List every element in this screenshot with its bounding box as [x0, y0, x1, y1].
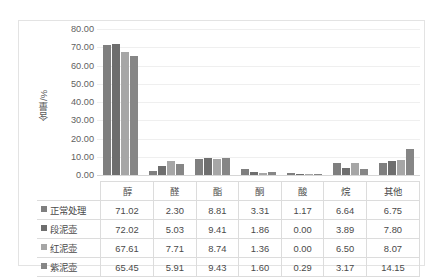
- data-cell: 7.80: [366, 220, 419, 239]
- data-cell: 1.36: [239, 239, 282, 258]
- column-header: 其他: [366, 182, 419, 201]
- y-axis-tick-labels: 80.0070.0060.0050.0040.0030.0020.0010.00…: [53, 23, 97, 181]
- bar-group-1: [143, 29, 189, 175]
- legend-swatch-icon: [41, 263, 47, 269]
- bar: [379, 163, 387, 175]
- y-axis-tick-label: 50.00: [71, 79, 94, 89]
- column-header: 酯: [196, 182, 239, 201]
- data-cell: 3.17: [324, 258, 367, 277]
- data-cell: 6.75: [366, 201, 419, 220]
- chart-frame: 含量/% 80.0070.0060.0050.0040.0030.0020.00…: [18, 20, 425, 266]
- bar: [406, 149, 414, 175]
- data-cell: 1.86: [239, 220, 282, 239]
- data-cell: 5.03: [154, 220, 197, 239]
- bar: [351, 163, 359, 175]
- y-axis-tick-label: 0.00: [76, 170, 94, 180]
- data-cell: 6.64: [324, 201, 367, 220]
- legend-item-3[interactable]: 紫泥壶: [37, 258, 101, 277]
- data-cell: 9.41: [196, 220, 239, 239]
- series-label: 紫泥壶: [50, 262, 77, 273]
- bar: [149, 171, 157, 175]
- bar: [314, 174, 322, 175]
- bar: [388, 161, 396, 175]
- data-cell: 67.61: [101, 239, 154, 258]
- bar: [112, 44, 120, 175]
- y-axis-tick-label: 80.00: [71, 24, 94, 34]
- data-cell: 3.89: [324, 220, 367, 239]
- bar: [259, 173, 267, 175]
- bar-group-2: [189, 29, 235, 175]
- data-cell: 8.07: [366, 239, 419, 258]
- bar: [305, 174, 313, 175]
- bar-group-3: [235, 29, 281, 175]
- data-cell: 3.31: [239, 201, 282, 220]
- data-cell: 6.50: [324, 239, 367, 258]
- bar: [158, 166, 166, 175]
- data-cell: 8.74: [196, 239, 239, 258]
- bar: [268, 172, 276, 175]
- table-row: 段泥壶72.025.039.411.860.003.897.80: [37, 220, 420, 239]
- legend-item-0[interactable]: 正常处理: [37, 201, 101, 220]
- bar: [103, 45, 111, 175]
- bar: [130, 56, 138, 175]
- bar: [167, 161, 175, 175]
- data-cell: 0.29: [281, 258, 324, 277]
- y-axis-tick-label: 70.00: [71, 42, 94, 52]
- legend-item-2[interactable]: 红泥壶: [37, 239, 101, 258]
- y-axis-tick-label: 20.00: [71, 134, 94, 144]
- data-cell: 9.43: [196, 258, 239, 277]
- data-cell: 1.60: [239, 258, 282, 277]
- bar: [397, 160, 405, 175]
- data-cell: 2.30: [154, 201, 197, 220]
- data-cell: 5.91: [154, 258, 197, 277]
- data-cell: 7.71: [154, 239, 197, 258]
- column-header: 酮: [239, 182, 282, 201]
- data-cell: 0.00: [281, 239, 324, 258]
- bar: [250, 172, 258, 175]
- bar: [333, 163, 341, 175]
- plot-area-wrapper: 含量/% 80.0070.0060.0050.0040.0030.0020.00…: [19, 23, 424, 181]
- data-cell: 71.02: [101, 201, 154, 220]
- y-axis-title: 含量/%: [37, 75, 51, 135]
- chart-data-table: 醇醛酯酮酸烷其他正常处理71.022.308.813.311.176.646.7…: [37, 181, 420, 277]
- data-table-body: 醇醛酯酮酸烷其他正常处理71.022.308.813.311.176.646.7…: [37, 182, 420, 277]
- bar-group-6: [374, 29, 420, 175]
- bar: [204, 158, 212, 175]
- column-header: 烷: [324, 182, 367, 201]
- data-cell: 8.81: [196, 201, 239, 220]
- legend-swatch-icon: [41, 206, 47, 212]
- series-label: 正常处理: [50, 205, 86, 216]
- data-cell: 14.15: [366, 258, 419, 277]
- bar: [342, 168, 350, 175]
- bar-group-5: [328, 29, 374, 175]
- bar: [241, 169, 249, 175]
- bar: [195, 159, 203, 175]
- data-cell: 1.17: [281, 201, 324, 220]
- legend-swatch-icon: [41, 225, 47, 231]
- bar: [121, 52, 129, 175]
- bar: [222, 158, 230, 175]
- bar: [360, 169, 368, 175]
- table-corner-cell: [37, 182, 101, 201]
- bar: [287, 173, 295, 175]
- series-label: 段泥壶: [50, 224, 77, 235]
- bar-group-0: [97, 29, 143, 175]
- y-axis-tick-label: 30.00: [71, 115, 94, 125]
- y-axis-tick-label: 10.00: [71, 152, 94, 162]
- table-row: 正常处理71.022.308.813.311.176.646.75: [37, 201, 420, 220]
- series-label: 红泥壶: [50, 243, 77, 254]
- plot-area: [97, 29, 420, 176]
- bar: [176, 164, 184, 175]
- table-header-row: 醇醛酯酮酸烷其他: [37, 182, 420, 201]
- bar: [296, 174, 304, 175]
- data-cell: 65.45: [101, 258, 154, 277]
- column-header: 醇: [101, 182, 154, 201]
- bar-group-4: [282, 29, 328, 175]
- data-cell: 0.00: [281, 220, 324, 239]
- column-header: 酸: [281, 182, 324, 201]
- y-axis-tick-label: 40.00: [71, 97, 94, 107]
- table-row: 红泥壶67.617.718.741.360.006.508.07: [37, 239, 420, 258]
- legend-item-1[interactable]: 段泥壶: [37, 220, 101, 239]
- data-cell: 72.02: [101, 220, 154, 239]
- column-header: 醛: [154, 182, 197, 201]
